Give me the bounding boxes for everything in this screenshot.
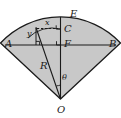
label-B: B: [109, 39, 116, 49]
label-R: R: [40, 61, 48, 71]
label-y: y: [27, 30, 32, 38]
label-A: A: [5, 39, 12, 49]
geometry-figure: E C F A B O R θ x y: [0, 0, 121, 118]
label-O: O: [57, 105, 65, 115]
label-C: C: [64, 24, 72, 34]
label-F: F: [64, 39, 71, 49]
label-E: E: [70, 9, 77, 19]
sector-diagram-svg: [0, 0, 121, 118]
label-x: x: [45, 19, 50, 27]
label-theta: θ: [62, 74, 67, 82]
